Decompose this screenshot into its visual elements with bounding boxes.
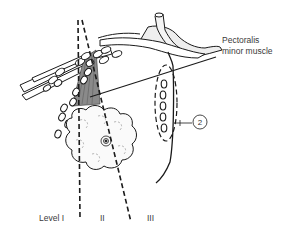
level-3-label: III — [147, 213, 154, 223]
chest-wall — [155, 52, 177, 183]
level-1-label: Level I — [39, 213, 64, 223]
callout-number: 2 — [198, 118, 203, 127]
level-1-2-divider — [78, 20, 80, 218]
rotter-lymph-nodes — [160, 80, 167, 132]
axilla-diagram: 2 Pectoralis minor muscle Level I II III — [0, 0, 284, 235]
callout-2: 2 — [174, 115, 207, 129]
breast-tissue-mass — [66, 106, 137, 170]
muscle-pointer-line — [90, 57, 216, 97]
muscle-label-line1: Pectoralis — [222, 35, 259, 45]
level-2-label: II — [100, 213, 105, 223]
muscle-label-line2: minor muscle — [222, 46, 273, 56]
